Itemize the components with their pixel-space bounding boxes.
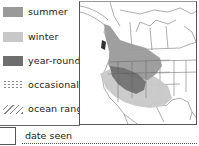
- occasional-dotted-swatch-icon: [3, 80, 23, 90]
- legend-item-occasional: occasional: [3, 79, 79, 91]
- summer-swatch-icon: [3, 7, 23, 17]
- legend-label: year-round: [28, 55, 81, 67]
- north-america-map-icon: [80, 2, 197, 125]
- legend-label: occasional: [28, 79, 79, 91]
- legend-item-winter: winter: [3, 31, 59, 43]
- date-seen-label: date seen: [25, 130, 72, 142]
- legend-label: winter: [28, 31, 59, 43]
- legend-item-summer: summer: [3, 6, 68, 18]
- winter-swatch-icon: [3, 32, 23, 42]
- divider: [0, 125, 80, 126]
- range-map: [79, 1, 197, 125]
- year-round-swatch-icon: [3, 56, 23, 66]
- legend-item-year-round: year-round: [3, 55, 81, 67]
- date-seen-checkbox[interactable]: [0, 127, 16, 145]
- date-seen-input-line[interactable]: [22, 143, 197, 144]
- legend-item-ocean-range: ocean range: [3, 103, 88, 115]
- ocean-range-hatch-swatch-icon: [3, 105, 23, 114]
- legend-label: summer: [28, 6, 68, 18]
